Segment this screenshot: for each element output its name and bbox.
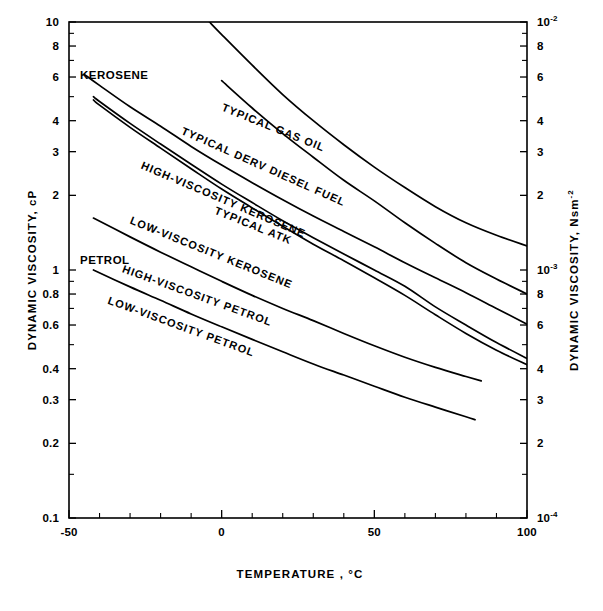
x-axis-tick-label: 0	[218, 526, 225, 538]
viscosity-chart-figure: 108643210.80.60.40.30.20.110-28643210-38…	[0, 0, 603, 611]
chart-svg: 108643210.80.60.40.30.20.110-28643210-38…	[0, 0, 603, 611]
y-axis-left-tick-label: 0.3	[42, 394, 59, 406]
series-label-typical-gas-oil: TYPICAL GAS OIL	[220, 101, 327, 153]
y-axis-right-tick-label: 4	[537, 115, 544, 127]
x-axis-tick-label: 100	[517, 526, 537, 538]
y-axis-right-tick-label: 2	[537, 189, 544, 201]
y-axis-left-tick-label: 2	[52, 189, 59, 201]
petrol-group-label: PETROL	[80, 254, 130, 266]
y-axis-left-title: DYNAMIC VISCOSITY, cP	[26, 190, 38, 351]
y-axis-right-tick-label: 3	[537, 394, 544, 406]
series-curve-low-viscosity-petrol	[93, 270, 475, 420]
y-axis-right-tick-label: 10-3	[537, 262, 558, 276]
y-axis-left-tick-label: 0.4	[42, 363, 59, 375]
y-axis-left-tick-label: 8	[52, 40, 59, 52]
x-axis-tick-label: 50	[368, 526, 381, 538]
y-axis-left-tick-label: 6	[52, 71, 59, 83]
y-axis-left-tick-label: 0.1	[42, 512, 59, 524]
y-axis-left-tick-label: 1	[52, 264, 59, 276]
series-curve-high-viscosity-kerosene	[84, 74, 527, 324]
y-axis-left-tick-label: 10	[46, 16, 59, 28]
y-axis-right-tick-label: 8	[537, 40, 544, 52]
kerosene-group-label: KEROSENE	[80, 69, 149, 81]
y-axis-left-tick-label: 3	[52, 146, 59, 158]
y-axis-left-tick-label: 4	[52, 115, 59, 127]
x-axis-title: TEMPERATURE , °C	[237, 568, 364, 580]
y-axis-left-tick-label: 0.6	[42, 319, 59, 331]
y-axis-right-tick-label: 4	[537, 363, 544, 375]
y-axis-right-tick-label: 6	[537, 71, 544, 83]
x-axis-tick-label: -50	[60, 526, 77, 538]
y-axis-right-tick-label: 2	[537, 437, 544, 449]
y-axis-right-tick-label: 3	[537, 146, 544, 158]
y-axis-right-tick-label: 10-2	[537, 14, 558, 28]
series-curve-typical-derv-diesel-fuel	[222, 81, 527, 294]
y-axis-left-tick-label: 0.2	[42, 437, 59, 449]
y-axis-right-title: DYNAMIC VISCOSITY, Nsm-2	[566, 189, 580, 371]
y-axis-right-tick-label: 10-4	[537, 510, 558, 524]
y-axis-left-tick-label: 0.8	[42, 288, 59, 300]
y-axis-right-tick-label: 6	[537, 319, 544, 331]
y-axis-right-tick-label: 8	[537, 288, 544, 300]
